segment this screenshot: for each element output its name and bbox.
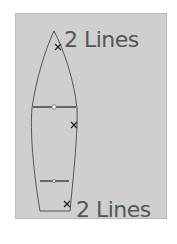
top-lines-label: 2 Lines	[64, 27, 139, 52]
bottom-lines-label: 2 Lines	[76, 197, 151, 222]
hull-outline	[31, 31, 77, 211]
aft-thwart-pivot	[52, 179, 55, 182]
bow-x-marker-icon	[55, 44, 61, 50]
mid-x-marker-icon	[71, 122, 77, 128]
forward-thwart-pivot	[52, 105, 56, 109]
stern-x-marker-icon	[64, 201, 70, 207]
